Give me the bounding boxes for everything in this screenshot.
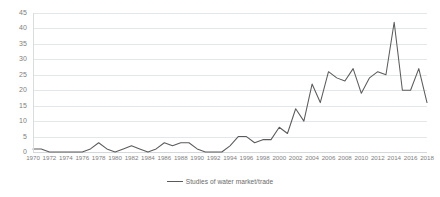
x-tick-label-2014: 2014 — [387, 154, 401, 161]
y-tick-label-20: 20 — [0, 86, 27, 93]
line-chart: 051015202530354045 197019721974197619781… — [0, 0, 440, 197]
plot-area — [33, 13, 427, 152]
x-tick-label-1976: 1976 — [75, 154, 89, 161]
x-tick-label-1990: 1990 — [190, 154, 204, 161]
x-tick-label-1984: 1984 — [141, 154, 155, 161]
x-axis-tick-labels: 1970197219741976197819801982198419861988… — [0, 154, 440, 168]
legend-line-swatch — [167, 181, 183, 183]
x-tick-label-1994: 1994 — [223, 154, 237, 161]
y-tick-label-25: 25 — [0, 71, 27, 78]
x-tick-label-1996: 1996 — [240, 154, 254, 161]
x-tick-label-2008: 2008 — [338, 154, 352, 161]
x-tick-label-1982: 1982 — [125, 154, 139, 161]
x-tick-label-1974: 1974 — [59, 154, 73, 161]
x-tick-label-2000: 2000 — [272, 154, 286, 161]
y-axis-line — [33, 13, 34, 152]
y-tick-label-45: 45 — [0, 9, 27, 16]
y-tick-label-35: 35 — [0, 40, 27, 47]
x-tick-label-1970: 1970 — [26, 154, 40, 161]
gridline-0 — [33, 152, 427, 153]
x-tick-label-1986: 1986 — [158, 154, 172, 161]
x-tick-label-2018: 2018 — [420, 154, 434, 161]
x-tick-label-2012: 2012 — [371, 154, 385, 161]
y-tick-label-5: 5 — [0, 133, 27, 140]
x-tick-label-2010: 2010 — [355, 154, 369, 161]
x-tick-label-2004: 2004 — [305, 154, 319, 161]
y-tick-label-40: 40 — [0, 24, 27, 31]
y-tick-label-15: 15 — [0, 102, 27, 109]
x-tick-label-1988: 1988 — [174, 154, 188, 161]
x-tick-label-1992: 1992 — [207, 154, 221, 161]
x-tick-label-2002: 2002 — [289, 154, 303, 161]
x-tick-label-1998: 1998 — [256, 154, 270, 161]
x-tick-label-2016: 2016 — [404, 154, 418, 161]
y-tick-label-30: 30 — [0, 55, 27, 62]
x-tick-label-1978: 1978 — [92, 154, 106, 161]
x-tick-label-1980: 1980 — [108, 154, 122, 161]
chart-legend: Studies of water market/trade — [0, 178, 440, 185]
series-layer — [33, 13, 427, 152]
legend-label: Studies of water market/trade — [186, 178, 274, 185]
x-tick-label-1972: 1972 — [43, 154, 57, 161]
x-tick-label-2006: 2006 — [322, 154, 336, 161]
series-line-studies-of-water-market-trade — [33, 22, 427, 152]
y-tick-label-10: 10 — [0, 117, 27, 124]
